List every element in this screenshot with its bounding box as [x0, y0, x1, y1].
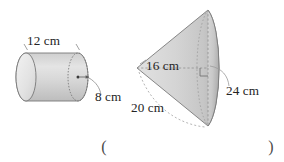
- answer-open-paren: (: [101, 138, 106, 156]
- cone-radius-label: 24 cm: [226, 83, 260, 98]
- geometry-figure-canvas: 12 cm 8 cm 16: [0, 0, 284, 162]
- cylinder-length-tick-right: [76, 44, 80, 50]
- cone-figure: 16 cm 20 cm 24 cm: [131, 10, 260, 127]
- cylinder-figure: 12 cm 8 cm: [16, 33, 122, 104]
- cone-slant-label: 20 cm: [131, 100, 165, 115]
- answer-close-paren: ): [268, 138, 273, 156]
- geometry-figure-panel: 12 cm 8 cm 16: [0, 0, 284, 162]
- cone-height-label: 16 cm: [146, 58, 180, 73]
- cylinder-length-label: 12 cm: [27, 33, 61, 48]
- cylinder-radius-label: 8 cm: [95, 89, 122, 104]
- cylinder-center-dot: [77, 76, 80, 79]
- answer-blank[interactable]: ( ): [101, 138, 273, 156]
- cylinder-left-cap: [16, 53, 36, 101]
